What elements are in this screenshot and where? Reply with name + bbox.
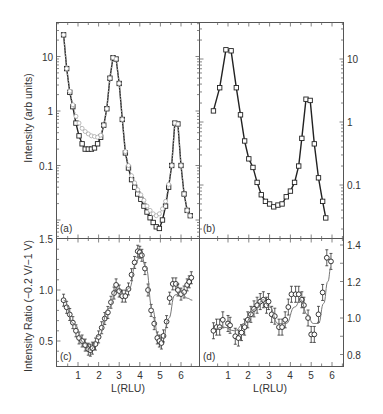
ytick-d-1.4: 1.4 — [347, 240, 361, 251]
figure: (a) (b) (c) (d) Intensity (arb units) In… — [0, 0, 383, 414]
xtick-c-5: 5 — [157, 370, 163, 381]
panel-d — [211, 250, 333, 346]
panel-c — [61, 245, 194, 356]
xtick-d-4: 4 — [287, 370, 293, 381]
xtick-c-6: 6 — [178, 370, 184, 381]
panel-label-c: (c) — [60, 351, 72, 362]
ytick-c-1.5: 1.5 — [39, 234, 53, 245]
ytick-a-10: 10 — [42, 52, 54, 63]
xtick-d-2: 2 — [245, 370, 251, 381]
x-axis-label-left: L(RLU) — [111, 382, 145, 394]
ytick-a-1: 1 — [47, 106, 53, 117]
ytick-d-1.2: 1.2 — [347, 277, 361, 288]
ytick-b-10: 10 — [347, 54, 359, 65]
xtick-d-3: 3 — [266, 370, 272, 381]
ytick-d-0.8: 0.8 — [347, 350, 361, 361]
ytick-c-0.5: 0.5 — [39, 336, 53, 347]
ytick-d-1.0: 1.0 — [347, 313, 361, 324]
x-axis-label-right: L(RLU) — [253, 382, 287, 394]
xtick-c-3: 3 — [116, 370, 122, 381]
xtick-d-1: 1 — [225, 370, 231, 381]
ytick-b-0.1: 0.1 — [347, 180, 361, 191]
xtick-d-6: 6 — [329, 370, 335, 381]
ytick-a-0.1: 0.1 — [39, 161, 53, 172]
ytick-c-1.0: 1.0 — [39, 285, 53, 296]
y-axis-label-ratio: Intensity Ratio (−0.2 V/−1 V) — [22, 240, 34, 372]
panel-label-d: (d) — [203, 351, 215, 362]
xtick-c-1: 1 — [75, 370, 81, 381]
plot-frames — [56, 22, 344, 367]
panel-label-b: (b) — [203, 223, 215, 234]
panel-a — [61, 33, 192, 231]
xtick-d-5: 5 — [308, 370, 314, 381]
panel-b — [211, 48, 328, 221]
xtick-c-2: 2 — [96, 370, 102, 381]
ytick-b-1: 1 — [347, 117, 353, 128]
xtick-c-4: 4 — [137, 370, 143, 381]
y-axis-label-intensity: Intensity (arb units) — [22, 73, 34, 162]
panel-label-a: (a) — [60, 223, 72, 234]
